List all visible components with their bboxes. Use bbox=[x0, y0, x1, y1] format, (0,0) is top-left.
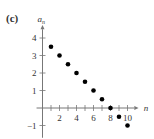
y-tick-label: 3 bbox=[32, 51, 37, 61]
data-point bbox=[91, 88, 96, 93]
data-point bbox=[66, 62, 71, 67]
x-tick-label: 8 bbox=[108, 113, 113, 123]
chart: (c)246810−11234nan bbox=[0, 0, 154, 139]
data-point bbox=[74, 71, 79, 76]
scatter-plot: (c)246810−11234nan bbox=[0, 0, 154, 139]
data-point bbox=[125, 123, 130, 128]
x-axis-label: n bbox=[144, 103, 149, 113]
data-point bbox=[83, 79, 88, 84]
data-point bbox=[49, 44, 54, 49]
y-axis-label: an bbox=[38, 14, 46, 25]
panel-label: (c) bbox=[6, 12, 19, 25]
x-tick-label: 10 bbox=[123, 113, 133, 123]
x-tick-label: 2 bbox=[57, 113, 62, 123]
y-tick-label: 4 bbox=[32, 33, 37, 43]
x-tick-label: 6 bbox=[91, 113, 96, 123]
data-point bbox=[100, 97, 105, 102]
x-axis-arrow-icon bbox=[134, 106, 138, 110]
data-point bbox=[57, 53, 62, 58]
y-tick-label: −1 bbox=[27, 121, 37, 131]
data-point bbox=[108, 106, 113, 111]
y-axis-arrow-icon bbox=[41, 25, 45, 29]
y-tick-label: 1 bbox=[32, 86, 37, 96]
data-point bbox=[117, 114, 122, 119]
x-tick-label: 4 bbox=[74, 113, 79, 123]
y-tick-label: 2 bbox=[32, 68, 37, 78]
